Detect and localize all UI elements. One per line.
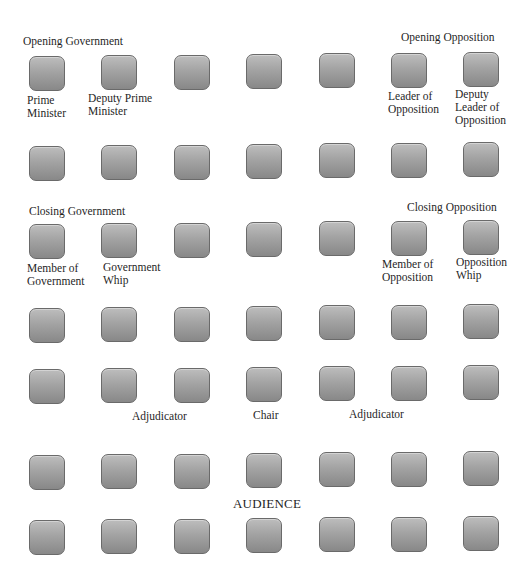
seat-r7-c1: [29, 520, 65, 555]
seat-r4-c4: [246, 306, 282, 341]
role-deputy-leader-of-opposition: Deputy Leader of Opposition: [455, 88, 506, 127]
seat-r3-c2: [101, 223, 137, 258]
label-adjudicator-right: Adjudicator: [349, 408, 404, 421]
seat-r1-c6: [391, 53, 427, 88]
seat-r1-c4: [246, 54, 282, 89]
role-member-of-government: Member of Government: [27, 262, 84, 288]
seat-r1-c1: [29, 56, 65, 91]
seat-r6-c7: [463, 451, 499, 486]
seat-r3-c4: [246, 222, 282, 257]
role-deputy-prime-minister: Deputy Prime Minister: [88, 92, 152, 118]
seat-r5-c2: [101, 368, 137, 403]
seat-r7-c3: [174, 519, 210, 554]
seat-r6-c1: [29, 455, 65, 490]
seat-r2-c7: [463, 142, 499, 177]
seat-r7-c4: [246, 518, 282, 553]
seat-r2-c4: [246, 144, 282, 179]
label-chair: Chair: [253, 409, 279, 422]
seat-r1-c5: [319, 53, 355, 88]
role-leader-of-opposition: Leader of Opposition: [388, 90, 439, 116]
seat-r5-c5: [319, 366, 355, 401]
seat-r3-c5: [319, 221, 355, 256]
role-prime-minister: Prime Minister: [27, 94, 66, 120]
seat-r4-c2: [101, 307, 137, 342]
seat-r3-c7: [463, 220, 499, 255]
seat-r2-c5: [319, 143, 355, 178]
seat-r1-c2: [101, 55, 137, 90]
seat-r7-c5: [319, 517, 355, 552]
role-government-whip: Government Whip: [103, 261, 160, 287]
seat-r6-c4: [246, 453, 282, 488]
seat-r5-c4: [246, 367, 282, 402]
seat-r7-c7: [463, 516, 499, 551]
heading-closing-government: Closing Government: [29, 205, 125, 218]
seat-r3-c1: [29, 224, 65, 259]
heading-opening-opposition: Opening Opposition: [401, 31, 495, 44]
seat-r1-c7: [463, 52, 499, 87]
seat-r2-c6: [391, 143, 427, 178]
role-member-of-opposition: Member of Opposition: [382, 258, 433, 284]
seat-r5-c6: [391, 366, 427, 401]
seat-r2-c3: [174, 145, 210, 180]
label-audience: AUDIENCE: [233, 496, 301, 512]
heading-opening-government: Opening Government: [23, 35, 123, 48]
label-adjudicator-left: Adjudicator: [132, 410, 187, 423]
seat-r3-c6: [391, 221, 427, 256]
role-opposition-whip: Opposition Whip: [456, 256, 507, 282]
seat-r4-c7: [463, 304, 499, 339]
seat-r6-c2: [101, 454, 137, 489]
seat-r5-c7: [463, 365, 499, 400]
seat-r2-c1: [29, 146, 65, 181]
seat-r5-c3: [174, 368, 210, 403]
seat-r7-c2: [101, 519, 137, 554]
seat-r3-c3: [174, 223, 210, 258]
seat-r6-c6: [391, 452, 427, 487]
seat-r6-c5: [319, 452, 355, 487]
seat-r7-c6: [391, 517, 427, 552]
seat-r5-c1: [29, 369, 65, 404]
seat-r4-c1: [29, 308, 65, 343]
seat-r6-c3: [174, 454, 210, 489]
seat-r2-c2: [101, 145, 137, 180]
seat-r4-c6: [391, 305, 427, 340]
seat-r4-c5: [319, 305, 355, 340]
heading-closing-opposition: Closing Opposition: [407, 201, 497, 214]
seat-r4-c3: [174, 307, 210, 342]
seat-r1-c3: [174, 55, 210, 90]
